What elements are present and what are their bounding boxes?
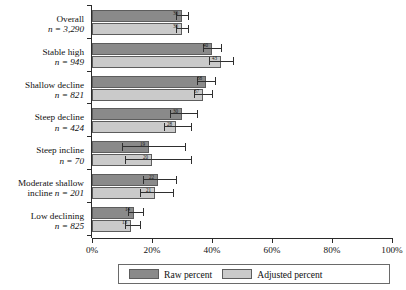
category-label-count: n = 201 — [55, 188, 84, 198]
x-axis-tick — [272, 238, 273, 243]
bar-row: 30 — [92, 108, 392, 120]
bar-row: 30 — [92, 23, 392, 35]
x-axis-tick-label: 0% — [72, 245, 112, 255]
bar-value-label: 20 — [143, 155, 148, 160]
legend-label: Raw percent — [164, 269, 212, 280]
bar-row: 21 — [92, 187, 392, 199]
bar-adjusted-percent — [92, 56, 221, 68]
x-axis-tick-label: 40% — [192, 245, 232, 255]
x-axis-tick — [152, 238, 153, 243]
bar-value-label: 40 — [203, 43, 208, 48]
bar-chart: Overalln = 3,290Stable highn = 949Shallo… — [0, 0, 406, 290]
y-axis-tick — [87, 103, 92, 104]
y-axis-tick — [87, 202, 92, 203]
bar-group: 3028 — [92, 108, 392, 133]
category-label-count: n = 424 — [55, 123, 84, 133]
bar-value-label: 14 — [125, 207, 130, 212]
error-bar-cap-high — [185, 143, 186, 151]
bar-value-label: 19 — [140, 142, 145, 147]
error-bar-cap-low — [170, 110, 171, 118]
bar-group: 1413 — [92, 207, 392, 232]
x-axis-tick — [92, 238, 93, 243]
bar-row: 19 — [92, 141, 392, 153]
error-bar-line — [125, 159, 191, 160]
bar-value-label: 30 — [173, 11, 178, 16]
bar-value-label: 28 — [167, 122, 172, 127]
error-bar-cap-low — [209, 57, 210, 65]
bar-group: 4043 — [92, 43, 392, 68]
bar-value-label: 38 — [197, 76, 202, 81]
error-bar-cap-high — [188, 12, 189, 20]
bar-value-label: 22 — [149, 175, 154, 180]
category-label: Stable highn = 949 — [0, 47, 84, 68]
category-label-name: Steep decline — [35, 112, 84, 122]
plot-area: 3030404338373028192022211413 — [92, 6, 392, 238]
error-bar-cap-high — [221, 44, 222, 52]
bar-row: 28 — [92, 121, 392, 133]
bar-value-label: 30 — [173, 24, 178, 29]
bar-row: 30 — [92, 10, 392, 22]
bar-row: 20 — [92, 154, 392, 166]
bar-value-label: 37 — [194, 89, 199, 94]
x-axis-tick-label: 80% — [312, 245, 352, 255]
category-label-tail: incline — [28, 188, 55, 198]
legend-swatch-raw — [129, 269, 159, 279]
error-bar-cap-high — [173, 189, 174, 197]
bar-value-label: 30 — [173, 109, 178, 114]
bar-row: 38 — [92, 76, 392, 88]
error-bar-cap-high — [140, 221, 141, 229]
error-bar-cap-high — [212, 90, 213, 98]
category-label: Low decliningn = 825 — [0, 211, 84, 232]
category-label: Steep declinen = 424 — [0, 112, 84, 133]
chart-legend: Raw percentAdjusted percent — [118, 264, 390, 284]
x-axis-line — [92, 238, 392, 239]
error-bar-cap-low — [122, 143, 123, 151]
error-bar-cap-high — [188, 25, 189, 33]
bar-row: 14 — [92, 207, 392, 219]
category-label-name: Moderate shallow — [18, 178, 84, 188]
bar-raw-percent — [92, 76, 206, 88]
legend-item: Adjusted percent — [222, 269, 322, 280]
category-label: Steep inclinen = 70 — [0, 145, 84, 166]
category-label-name: Shallow decline — [25, 80, 84, 90]
bar-adjusted-percent — [92, 89, 203, 101]
category-label: Moderate shallowincline n = 201 — [0, 178, 84, 199]
error-bar-cap-high — [191, 123, 192, 131]
category-label-name: Steep incline — [36, 145, 84, 155]
bar-row: 13 — [92, 220, 392, 232]
error-bar-line — [125, 225, 140, 226]
bar-group: 3837 — [92, 76, 392, 101]
y-axis-tick — [87, 38, 92, 39]
bar-raw-percent — [92, 10, 182, 22]
error-bar-line — [140, 192, 173, 193]
bar-raw-percent — [92, 108, 182, 120]
error-bar-line — [122, 146, 185, 147]
category-label-count: n = 949 — [55, 57, 84, 67]
bar-raw-percent — [92, 43, 212, 55]
error-bar-cap-high — [143, 208, 144, 216]
error-bar-cap-high — [176, 176, 177, 184]
legend-swatch-adj — [222, 269, 252, 279]
error-bar-cap-low — [125, 156, 126, 164]
bar-row: 40 — [92, 43, 392, 55]
category-label-count: n = 821 — [55, 90, 84, 100]
error-bar-line — [143, 179, 176, 180]
error-bar-cap-high — [215, 77, 216, 85]
bar-group: 3030 — [92, 10, 392, 35]
category-label-name: Overall — [56, 14, 84, 24]
bar-adjusted-percent — [92, 23, 182, 35]
legend-item: Raw percent — [129, 269, 212, 280]
category-label: Overalln = 3,290 — [0, 14, 84, 35]
x-axis-tick — [332, 238, 333, 243]
y-axis-tick — [87, 169, 92, 170]
error-bar-cap-low — [143, 176, 144, 184]
error-bar-cap-low — [140, 189, 141, 197]
error-bar-line — [128, 212, 143, 213]
y-axis-tick — [87, 235, 92, 236]
bar-value-label: 13 — [122, 220, 127, 225]
x-axis-tick — [212, 238, 213, 243]
category-label: Shallow declinen = 821 — [0, 80, 84, 101]
bar-row: 43 — [92, 56, 392, 68]
bar-group: 1920 — [92, 141, 392, 166]
category-label-count: n = 3,290 — [48, 24, 84, 34]
